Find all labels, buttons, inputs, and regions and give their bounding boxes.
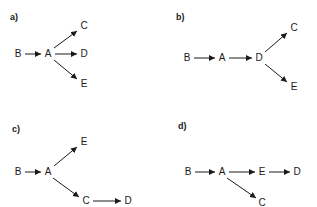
edge-D-to-C <box>265 33 287 52</box>
node-A: A <box>216 166 228 178</box>
edge-A-to-C <box>227 178 256 198</box>
panel-d: d) BAEDC <box>159 104 317 207</box>
figure-canvas: a) BACDE b) BADCE c) <box>0 0 317 207</box>
node-C: C <box>80 195 92 207</box>
node-D: D <box>78 48 90 60</box>
node-B: B <box>182 166 194 178</box>
node-A: A <box>42 166 54 178</box>
node-A: A <box>216 52 228 64</box>
node-D: D <box>253 52 265 64</box>
node-B: B <box>181 52 193 64</box>
panel-c: c) BAECD <box>0 104 158 207</box>
node-D: D <box>291 166 303 178</box>
edge-D-to-E <box>265 64 287 82</box>
node-E: E <box>256 166 268 178</box>
node-D: D <box>122 195 134 207</box>
edge-A-to-E <box>54 147 77 166</box>
node-E: E <box>288 81 300 93</box>
edge-A-to-E <box>54 60 77 79</box>
edge-A-to-C <box>54 31 77 48</box>
node-C: C <box>78 20 90 32</box>
node-E: E <box>78 78 90 90</box>
panel-d-edge-group <box>195 172 290 198</box>
panel-c-edge-group <box>25 147 121 201</box>
node-B: B <box>12 166 24 178</box>
panel-b: b) BADCE <box>159 0 317 103</box>
node-B: B <box>12 48 24 60</box>
panel-d-edges <box>159 104 317 207</box>
panel-b-edge-group <box>194 33 287 82</box>
node-C: C <box>288 22 300 34</box>
node-C: C <box>256 197 268 207</box>
edge-A-to-C <box>53 178 79 197</box>
panel-a: a) BACDE <box>0 0 158 103</box>
panel-c-edges <box>0 104 158 207</box>
node-A: A <box>42 48 54 60</box>
node-E: E <box>78 136 90 148</box>
